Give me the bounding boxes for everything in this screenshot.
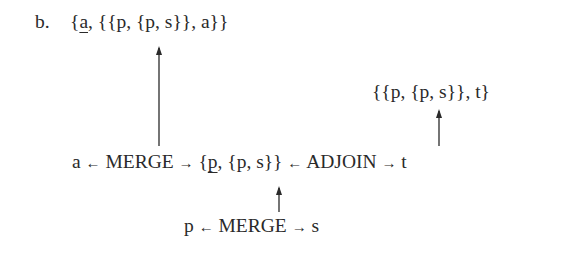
left-arrow-icon: ←	[287, 155, 302, 171]
adjoin-result: {{p, {p, s}}, t}	[372, 82, 490, 102]
arrow-to-top-structure	[156, 46, 162, 146]
bottom-row: p ← MERGE → s	[184, 216, 319, 236]
left-arrow-icon: ←	[199, 219, 214, 235]
example-label: b.	[35, 12, 50, 32]
adjoin-label: ADJOIN	[306, 151, 376, 172]
top-brace-open: {	[70, 11, 79, 32]
merge1-label: MERGE	[105, 151, 173, 172]
left-arrow-icon: ←	[86, 155, 101, 171]
middle-set: {p, {p, s}}	[198, 151, 282, 172]
right-arrow-icon: →	[381, 155, 396, 171]
merge2-left-input: p	[184, 215, 194, 236]
top-structure-rest: , {{p, {p, s}}, a}}	[88, 11, 228, 32]
top-structure: {a, {{p, {p, s}}, a}}	[70, 12, 228, 32]
top-head-underlined: a	[79, 11, 88, 32]
middle-row: a ← MERGE → {p, {p, s}} ← ADJOIN → t	[72, 152, 407, 172]
middle-set-rest: , {p, s}}	[218, 151, 283, 172]
middle-set-head-underlined: p	[208, 151, 218, 172]
merge2-label: MERGE	[219, 215, 287, 236]
arrow-to-adjoin-result	[436, 109, 442, 146]
merge2-right-input: s	[312, 215, 320, 236]
adjoin-input: t	[401, 151, 406, 172]
right-arrow-icon: →	[292, 219, 307, 235]
right-arrow-icon: →	[179, 155, 194, 171]
merge1-left-input: a	[72, 151, 81, 172]
arrow-to-middle-set	[276, 186, 282, 212]
middle-set-brace: {	[198, 151, 207, 172]
